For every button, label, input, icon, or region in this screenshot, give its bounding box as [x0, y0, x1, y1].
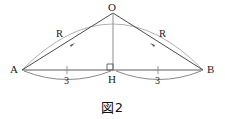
figure-caption: 図2	[0, 97, 225, 116]
right-angle-square-icon	[107, 64, 113, 70]
radius-arrow-tick-left	[70, 43, 75, 47]
radius-label-right: R	[159, 29, 166, 40]
vertex-label-A: A	[10, 64, 18, 75]
vertex-label-H: H	[108, 74, 116, 85]
radius-arrow-tick-right	[150, 43, 155, 47]
length-label-right: 3	[155, 76, 160, 86]
segment-OB-radius	[113, 13, 203, 70]
vertex-label-B: B	[207, 64, 214, 75]
segment-OA-radius	[22, 13, 113, 70]
length-label-left: 3	[64, 76, 69, 86]
geometry-figure: O A B H R R 3 3 図2	[0, 0, 225, 119]
vertex-label-O: O	[108, 2, 116, 13]
radius-label-left: R	[56, 29, 63, 40]
